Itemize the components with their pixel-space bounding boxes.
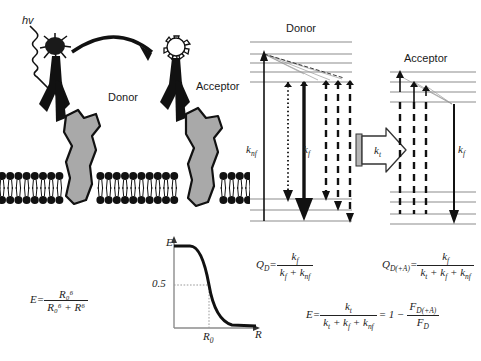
plot-x-tick-label: R0	[203, 330, 213, 345]
jablonski-acceptor-title: Acceptor	[404, 52, 447, 64]
acceptor-receptor-protein	[186, 108, 222, 206]
efficiency-equation: E= kt kt + kf + knf = 1 − FD(+A) FD	[306, 300, 439, 331]
donor-absorption-arrow	[260, 50, 268, 221]
plot-axes	[174, 240, 256, 328]
donor-relaxation-dashed	[264, 54, 344, 78]
figure-canvas: Donor Acceptor hv E 0.5 R0 R E= R₀⁶ R₀⁶ …	[0, 0, 481, 361]
plot-x-label: R	[255, 328, 262, 340]
acceptor-label: Acceptor	[196, 80, 240, 92]
acceptor-fluorophore-star	[164, 36, 190, 59]
k-nf-dotted-arrow	[283, 82, 293, 202]
photon-label: hv	[22, 14, 35, 26]
jablonski-donor-title: Donor	[286, 22, 316, 34]
energy-transfer-curved-arrow	[72, 37, 152, 61]
acceptor-antibody	[160, 58, 190, 122]
k-t-label: kt	[374, 144, 381, 159]
plot-y-tick-label: 0.5	[152, 277, 166, 289]
qd-equation: QD= kf kf + knf	[256, 250, 313, 281]
donor-receptor-protein	[64, 110, 100, 204]
fret-efficiency-curve	[174, 246, 256, 326]
donor-antibody	[39, 56, 70, 122]
kt-block-arrow	[356, 128, 406, 172]
forster-equation: E= R₀⁶ R₀⁶ + R⁶	[30, 288, 88, 313]
k-nf-label: knf	[246, 143, 257, 158]
qda-equation: QD(+A)= kf kt + kf + knf	[382, 250, 474, 281]
membrane-panel: Donor Acceptor hv	[0, 0, 250, 240]
acceptor-arrowhead-1	[396, 70, 404, 78]
k-f-acceptor-label: kf	[458, 143, 465, 158]
plot-y-label: E	[166, 236, 173, 248]
donor-dashed-transfer-arrows	[322, 80, 354, 223]
donor-label: Donor	[108, 91, 138, 103]
acceptor-dashed-arrows	[400, 102, 426, 214]
acceptor-kf-arrow	[449, 104, 459, 224]
plot-guidelines	[174, 285, 209, 328]
k-f-label: kf	[303, 143, 310, 158]
acceptor-ground-levels	[390, 192, 476, 224]
